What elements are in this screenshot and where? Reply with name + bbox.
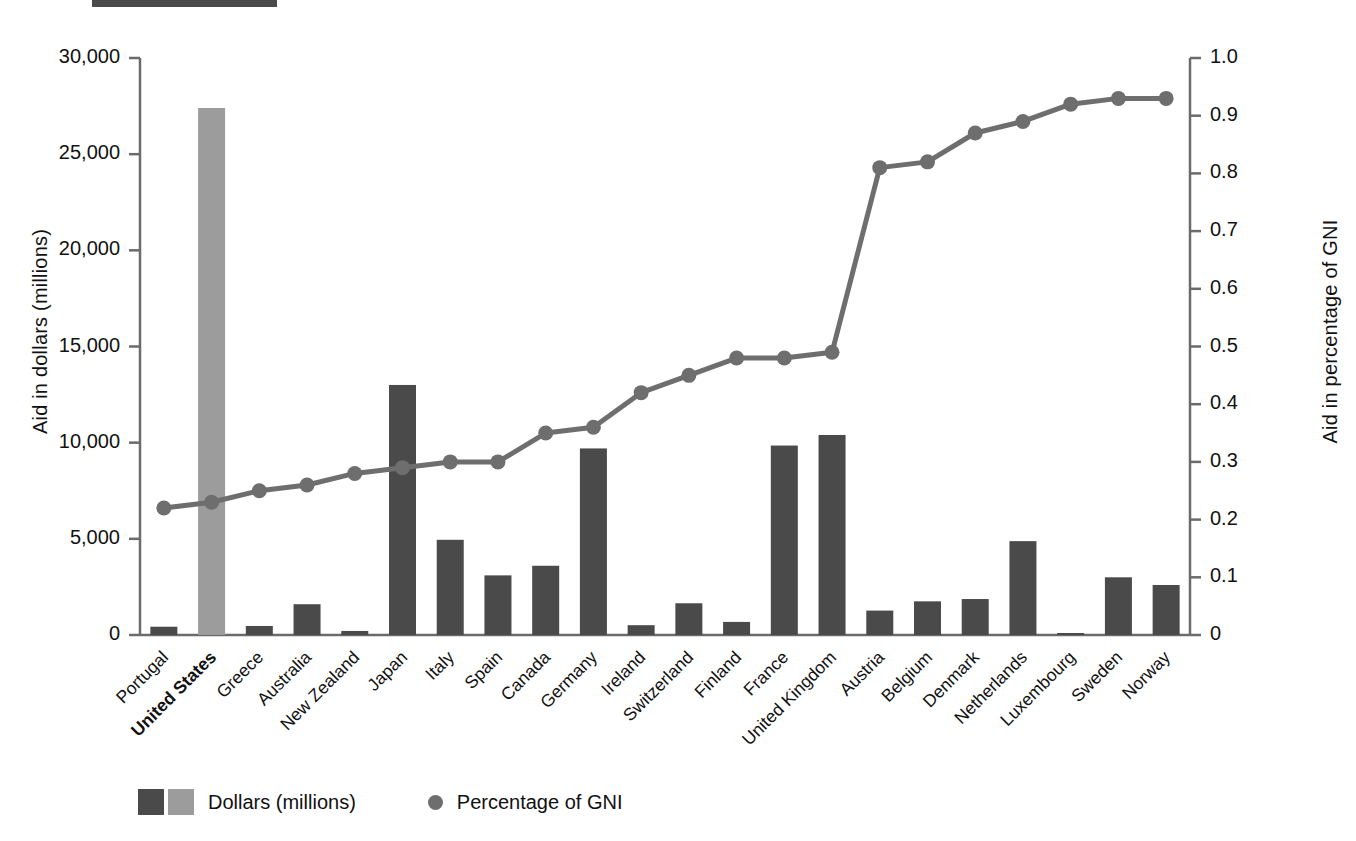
y-axis-right-tick-label: 1.0	[1210, 45, 1238, 68]
y-axis-right-tick-label: 0.3	[1210, 449, 1238, 472]
y-axis-right-tick-label: 0.1	[1210, 564, 1238, 587]
bar-ireland	[628, 625, 655, 635]
legend-item-gni: Percentage of GNI	[428, 791, 623, 814]
legend-label-dollars: Dollars (millions)	[208, 791, 356, 814]
gni-point-greece	[252, 483, 267, 498]
bar-united-states	[198, 108, 225, 635]
bar-germany	[580, 448, 607, 635]
gni-point-united-kingdom	[825, 345, 840, 360]
bar-denmark	[962, 599, 989, 635]
y-axis-right-tick-label: 0.2	[1210, 507, 1238, 530]
bar-luxembourg	[1057, 633, 1084, 635]
chart-legend: Dollars (millions) Percentage of GNI	[138, 789, 622, 815]
gni-point-switzerland	[681, 368, 696, 383]
y-axis-left-tick-label: 10,000	[0, 430, 120, 453]
y-axis-left-tick-label: 5,000	[0, 526, 120, 549]
bar-australia	[294, 604, 321, 635]
y-axis-left-tick-label: 25,000	[0, 141, 120, 164]
y-axis-left-tick-label: 15,000	[0, 334, 120, 357]
bar-new-zealand	[341, 631, 368, 635]
y-axis-right-tick-label: 0.4	[1210, 391, 1238, 414]
legend-swatch-dark	[138, 789, 164, 815]
gni-point-portugal	[156, 501, 171, 516]
y-axis-right-tick-label: 0.5	[1210, 334, 1238, 357]
y-axis-left-tick-label: 0	[0, 622, 120, 645]
gni-point-denmark	[968, 126, 983, 141]
gni-line	[164, 98, 1166, 508]
gni-point-italy	[443, 454, 458, 469]
gni-point-sweden	[1111, 91, 1126, 106]
bar-france	[771, 446, 798, 635]
chart-figure: Aid in dollars (millions) Aid in percent…	[0, 0, 1356, 841]
y-axis-left-tick-label: 30,000	[0, 45, 120, 68]
bar-greece	[246, 626, 273, 635]
gni-point-norway	[1159, 91, 1174, 106]
bar-spain	[484, 575, 511, 635]
gni-point-belgium	[920, 154, 935, 169]
bar-netherlands	[1009, 541, 1036, 635]
gni-point-luxembourg	[1063, 97, 1078, 112]
bar-switzerland	[675, 603, 702, 635]
gni-point-new-zealand	[347, 466, 362, 481]
bar-austria	[866, 611, 893, 635]
gni-point-canada	[538, 426, 553, 441]
y-axis-right-tick-label: 0.6	[1210, 276, 1238, 299]
gni-point-australia	[300, 477, 315, 492]
legend-dot-icon	[428, 795, 443, 810]
gni-point-japan	[395, 460, 410, 475]
bar-portugal	[150, 627, 177, 635]
gni-point-austria	[872, 160, 887, 175]
gni-point-germany	[586, 420, 601, 435]
legend-swatch-light	[168, 789, 194, 815]
y-axis-left-tick-label: 20,000	[0, 237, 120, 260]
gni-point-spain	[490, 454, 505, 469]
legend-item-dollars: Dollars (millions)	[138, 789, 356, 815]
bar-united-kingdom	[819, 435, 846, 635]
bar-italy	[437, 540, 464, 635]
bar-norway	[1153, 585, 1180, 635]
bar-japan	[389, 385, 416, 635]
legend-label-gni: Percentage of GNI	[457, 791, 623, 814]
bar-canada	[532, 566, 559, 635]
bar-finland	[723, 622, 750, 635]
plot-area	[0, 0, 1356, 841]
bar-sweden	[1105, 577, 1132, 635]
y-axis-right-tick-label: 0.9	[1210, 103, 1238, 126]
gni-point-finland	[729, 351, 744, 366]
y-axis-right-tick-label: 0.8	[1210, 160, 1238, 183]
gni-point-united-states	[204, 495, 219, 510]
gni-point-france	[777, 351, 792, 366]
bar-belgium	[914, 601, 941, 635]
y-axis-right-tick-label: 0	[1210, 622, 1221, 645]
gni-point-ireland	[634, 385, 649, 400]
gni-point-netherlands	[1015, 114, 1030, 129]
y-axis-right-tick-label: 0.7	[1210, 218, 1238, 241]
